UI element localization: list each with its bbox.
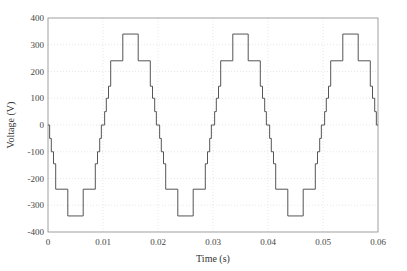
x-axis-ticks: 00.010.020.030.040.050.06 [46, 237, 387, 247]
y-tick-label: 0 [40, 120, 45, 130]
x-tick-label: 0.06 [370, 237, 386, 247]
y-tick-label: -300 [28, 200, 45, 210]
voltage-waveform [48, 34, 378, 216]
y-axis-label: Voltage (V) [5, 102, 17, 149]
x-tick-label: 0.05 [315, 237, 331, 247]
x-tick-label: 0.04 [260, 237, 276, 247]
y-tick-label: 100 [31, 93, 45, 103]
x-tick-label: 0 [46, 237, 51, 247]
y-tick-label: -200 [28, 174, 45, 184]
x-tick-label: 0.02 [150, 237, 166, 247]
voltage-chart: -400-300-200-1000100200300400 00.010.020… [0, 0, 407, 271]
y-tick-label: -100 [28, 147, 45, 157]
y-tick-label: 300 [31, 40, 45, 50]
y-tick-label: 200 [31, 67, 45, 77]
y-tick-label: 400 [31, 13, 45, 23]
y-axis-ticks: -400-300-200-1000100200300400 [28, 13, 45, 237]
x-tick-label: 0.01 [95, 237, 111, 247]
y-tick-label: -400 [28, 227, 45, 237]
x-axis-label: Time (s) [196, 253, 230, 265]
x-tick-label: 0.03 [205, 237, 221, 247]
